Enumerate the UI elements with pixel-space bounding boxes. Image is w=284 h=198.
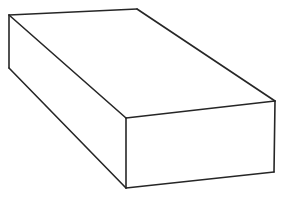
figure-canvas xyxy=(0,0,284,198)
edge-front-right-vertical xyxy=(274,101,275,172)
cuboid-drawing xyxy=(0,0,284,198)
